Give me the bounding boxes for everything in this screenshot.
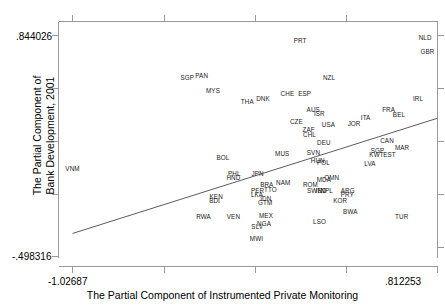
regression-line-group	[73, 118, 438, 233]
axis-group	[52, 15, 444, 273]
x-axis-min-label: -1.02687	[48, 276, 87, 287]
scatter-plot-figure: VNMSGPPANMYSTHAPRTNLDGBRNZLDNKCHEESPIRLA…	[0, 0, 445, 306]
y-axis-title-line1: The Partial Component of	[31, 21, 44, 251]
regression-fit-line	[73, 118, 438, 233]
x-axis-title: The Partial Component of Instrumented Pr…	[0, 289, 445, 301]
plot-canvas	[0, 0, 445, 306]
y-axis-min-label: -.498316	[12, 251, 51, 262]
y-axis-title: The Partial Component of Bank Developmen…	[31, 21, 56, 251]
x-axis-max-label: .812253	[385, 276, 421, 287]
y-axis-title-line2: Bank Development, 2001	[43, 21, 56, 251]
